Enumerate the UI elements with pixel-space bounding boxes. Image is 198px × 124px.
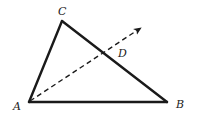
- triangle-diagram: C D A B: [0, 0, 198, 124]
- label-c: C: [58, 5, 67, 18]
- side-ac: [29, 21, 62, 102]
- label-a: A: [12, 100, 21, 113]
- label-b: B: [175, 98, 184, 111]
- label-d: D: [117, 47, 127, 60]
- side-cb: [62, 21, 167, 102]
